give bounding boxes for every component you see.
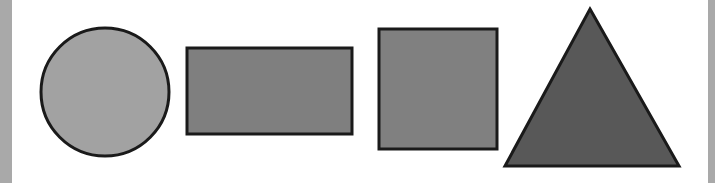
shapes-canvas: [0, 0, 715, 183]
circle-shape: [41, 28, 169, 156]
rectangle-shape: [187, 48, 352, 134]
triangle-shape: [505, 9, 679, 166]
square-shape: [379, 29, 497, 149]
